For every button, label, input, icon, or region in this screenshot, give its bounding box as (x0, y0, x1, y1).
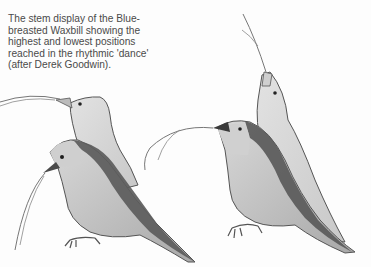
right-low-bird (145, 121, 355, 253)
book-page: The stem display of the Blue- breasted W… (0, 0, 371, 267)
left-low-bird (15, 140, 195, 262)
waxbill-illustration (0, 0, 371, 267)
